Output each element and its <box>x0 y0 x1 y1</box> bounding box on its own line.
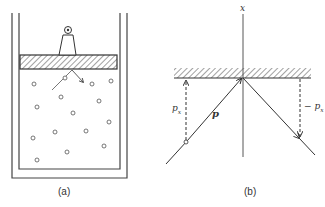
weight-icon <box>59 27 76 56</box>
incoming-component-label: px <box>172 103 181 115</box>
gas-molecules <box>31 76 113 162</box>
caption-b: (b) <box>244 186 256 197</box>
reflected-momentum-vector <box>243 78 315 155</box>
diagram-canvas <box>0 0 325 207</box>
axis-label-x: x <box>240 3 245 13</box>
caption-a: (a) <box>58 186 70 197</box>
incoming-momentum-vector <box>166 79 241 164</box>
molecule-trajectory <box>52 70 83 90</box>
momentum-label: p <box>212 108 219 119</box>
wall <box>174 68 311 78</box>
piston <box>20 55 117 69</box>
outgoing-component-label: − px <box>304 101 324 113</box>
